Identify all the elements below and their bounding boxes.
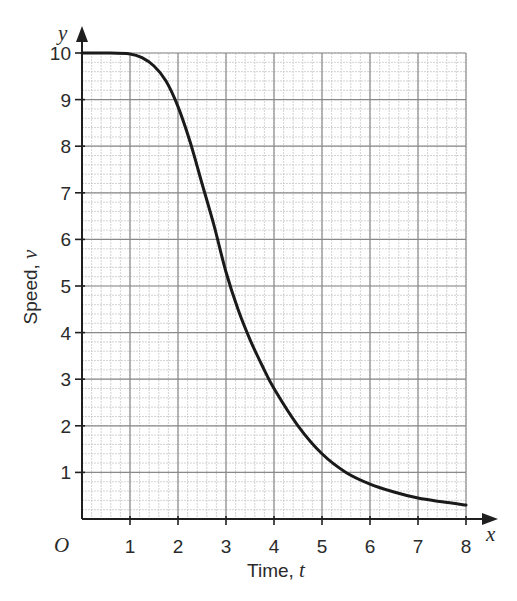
x-axis-title-var: t — [299, 558, 306, 582]
y-tick-label: 8 — [60, 136, 71, 157]
y-tick-label: 5 — [60, 276, 71, 297]
x-tick-label: 1 — [125, 536, 136, 557]
y-tick-label: 6 — [60, 229, 71, 250]
x-axis-title-text: Time, — [247, 560, 299, 581]
x-axis-variable: x — [485, 522, 496, 546]
axis-ticks — [75, 53, 466, 525]
y-axis-variable: y — [56, 21, 68, 45]
y-axis-title-text: Speed, — [20, 259, 41, 325]
y-tick-label: 2 — [60, 416, 71, 437]
speed-time-chart: y x O Time, t Speed, v 12345678123456789… — [0, 0, 517, 601]
y-tick-label: 3 — [60, 369, 71, 390]
x-tick-label: 7 — [413, 536, 424, 557]
y-tick-label: 10 — [50, 43, 71, 64]
x-axis-title: Time, t — [247, 558, 306, 582]
y-tick-label: 1 — [60, 462, 71, 483]
x-tick-label: 4 — [269, 536, 280, 557]
x-tick-label: 8 — [461, 536, 472, 557]
x-tick-label: 3 — [221, 536, 232, 557]
y-axis-title-var: v — [18, 249, 42, 259]
y-tick-label: 9 — [60, 90, 71, 111]
x-tick-label: 5 — [317, 536, 328, 557]
y-tick-label: 7 — [60, 183, 71, 204]
x-tick-label: 2 — [173, 536, 184, 557]
y-axis-title: Speed, v — [18, 249, 42, 325]
origin-label: O — [54, 533, 69, 557]
x-tick-label: 6 — [365, 536, 376, 557]
y-axis-arrow-icon — [76, 26, 88, 42]
y-tick-label: 4 — [60, 323, 71, 344]
